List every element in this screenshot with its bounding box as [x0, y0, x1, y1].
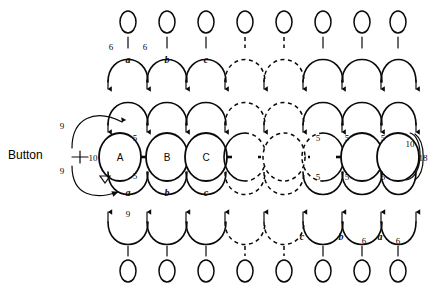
- top-arc: [342, 60, 382, 83]
- top-ellipse: [120, 11, 136, 33]
- weight-node6-topright: 5: [345, 133, 350, 143]
- mid-arc: [186, 103, 226, 126]
- bottom-ellipse: [390, 260, 406, 282]
- feedback-bottom-label: 9: [60, 166, 65, 176]
- bottom-ellipse: [159, 260, 175, 282]
- node-B-label: B: [164, 152, 171, 163]
- bottom-cup: [147, 222, 187, 245]
- mid-arc: [342, 103, 382, 126]
- bottom-edge-weights: 9 6 6: [126, 209, 401, 246]
- top-edge-weight-left: 6: [109, 42, 114, 52]
- bottom-cup: [186, 222, 226, 245]
- top-ellipse: [198, 11, 214, 33]
- top-ellipse: [354, 11, 370, 33]
- mid-arc: [303, 103, 343, 126]
- weight-node6-bottomleft: 5: [316, 172, 321, 182]
- top-arc-label-b: b: [165, 54, 170, 65]
- feedback-top-label: 9: [60, 121, 65, 131]
- bottom-ellipse: [354, 260, 370, 282]
- mid-arc-dashed: [264, 103, 304, 126]
- mid-arc: [381, 103, 416, 126]
- top-ellipse: [159, 11, 175, 33]
- top-ellipse: [237, 11, 253, 33]
- top-ellipse: [315, 11, 331, 33]
- bottom-ellipse: [198, 260, 214, 282]
- top-ellipse-row: [120, 11, 406, 33]
- mid-arc: [108, 103, 148, 126]
- right-inner-label: 10: [406, 139, 416, 149]
- bottom-ellipse-row: [120, 260, 406, 282]
- top-arc: [303, 60, 343, 83]
- right-bracket-label: 18: [419, 153, 428, 163]
- second-arc-row: [108, 103, 416, 133]
- bottom-ellipse: [237, 260, 253, 282]
- weight-node6-bottomright: 5: [345, 172, 350, 182]
- weight-node8-top: 5: [381, 133, 386, 143]
- top-ellipse: [276, 11, 292, 33]
- button-label: Button: [8, 148, 70, 162]
- bottom-ellipse: [276, 260, 292, 282]
- node-A-label: A: [117, 152, 124, 163]
- top-ellipse: [390, 11, 406, 33]
- bottom-edge-weight-right: 6: [396, 236, 401, 246]
- top-arc-label-c: c: [204, 54, 209, 65]
- top-arc-label-a: a: [126, 54, 131, 65]
- lower-arc-label-c: c: [204, 187, 209, 198]
- weight-A-bottom: 5: [133, 171, 138, 181]
- top-arc-dashed: [225, 60, 265, 83]
- mid-arc-dashed: [225, 103, 265, 126]
- top-arc-row: [108, 37, 416, 89]
- bottom-cup: [108, 222, 148, 245]
- bottom-cup: [303, 222, 343, 245]
- mid-arc: [147, 103, 187, 126]
- top-arc: [381, 60, 416, 83]
- lower-arc-label-b: b: [165, 187, 170, 198]
- bottom-ellipse: [315, 260, 331, 282]
- bottom-weight-left: 9: [126, 209, 131, 219]
- bottom-ellipse: [120, 260, 136, 282]
- diagram-canvas: A B C 5 5 5 5 5 5: [0, 0, 428, 292]
- top-arc-dashed: [264, 60, 304, 83]
- button-lead-label: 10: [89, 153, 99, 163]
- bottom-cup-dashed: [264, 222, 304, 245]
- top-edge-weight-right: 6: [143, 42, 148, 52]
- lower-arc-label-a: a: [126, 187, 131, 198]
- bottom-cup-dashed: [225, 222, 265, 245]
- bottom-arc-row: [108, 212, 416, 256]
- weight-node6-topleft: 5: [316, 133, 321, 143]
- node-5-dashed: [263, 133, 305, 181]
- diagram-root: A B C 5 5 5 5 5 5: [0, 0, 428, 292]
- weight-A-top: 5: [133, 133, 138, 143]
- node-C-label: C: [202, 152, 209, 163]
- bottom-edge-weight-left: 6: [362, 236, 367, 246]
